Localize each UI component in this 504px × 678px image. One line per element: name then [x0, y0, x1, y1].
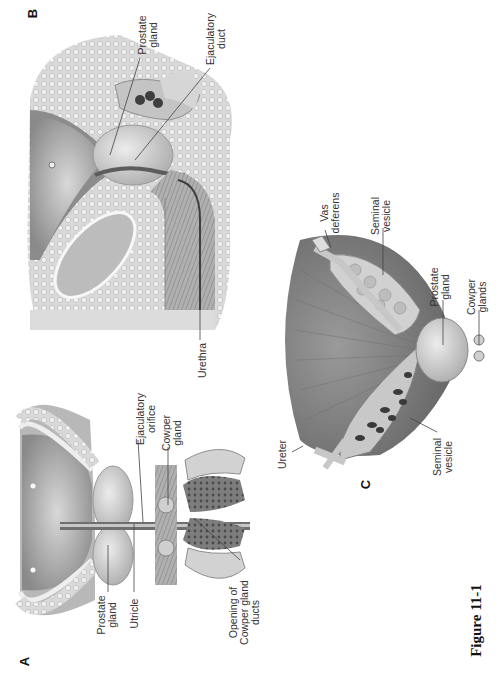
label-a-utricle: Utricle [129, 594, 140, 634]
label-b-urethra: Urethra [197, 339, 208, 383]
panel-b-illustration [28, 35, 233, 340]
label-c-prostate-gland: Prostate gland [429, 261, 451, 313]
panel-letter-b: B [25, 9, 40, 18]
label-c-vas-deferens: Vas deferens [319, 185, 341, 241]
label-a-prostate-gland: Prostate gland [96, 585, 118, 645]
figure-caption: Figure 11-1 [468, 584, 485, 657]
label-a-opening-cowper-ducts: Opening of Cowper gland ducts [228, 577, 261, 649]
label-b-prostate-gland: Prostate gland [137, 5, 159, 65]
panel-letter-a: A [17, 657, 32, 666]
label-c-seminal-vesicle-bottom: Seminal vesicle [432, 432, 454, 482]
panel-c-illustration [285, 228, 484, 468]
label-c-seminal-vesicle-top: Seminal vesicle [370, 191, 392, 241]
label-c-ureter: Ureter [277, 435, 288, 475]
label-b-ejaculatory-duct: Ejaculatory duct [205, 9, 227, 69]
label-a-ejaculatory-orifice: Ejaculatory orifice [135, 389, 157, 449]
label-a-cowper-gland: Cowper gland [161, 411, 183, 455]
panel-letter-c: C [358, 480, 373, 489]
label-c-cowper-glands: Cowper glands [466, 272, 488, 322]
